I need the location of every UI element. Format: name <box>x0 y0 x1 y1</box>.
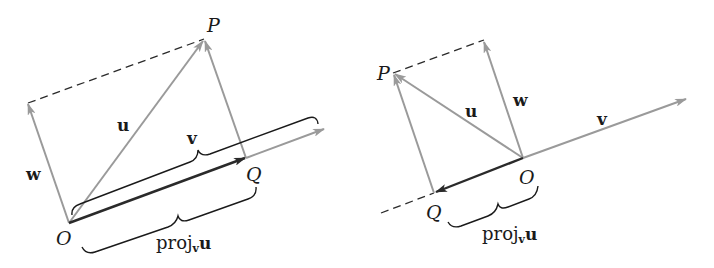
label-O: O <box>56 227 72 249</box>
right-diagram: P O Q u w v projvu <box>376 40 686 246</box>
vector-w-at-q <box>394 75 434 193</box>
label-Q: Q <box>426 201 442 223</box>
vector-proj <box>436 158 523 192</box>
label-u: u <box>117 115 129 135</box>
label-proj: projvu <box>156 232 211 255</box>
label-u: u <box>465 101 477 121</box>
label-w: w <box>25 164 41 184</box>
vector-v-extension <box>246 129 324 158</box>
left-diagram: P O Q u v w projvu <box>25 14 324 255</box>
proj-main: proj <box>156 232 193 253</box>
vector-u <box>69 41 203 223</box>
proj-main: proj <box>482 223 519 244</box>
proj-vec: u <box>525 224 537 244</box>
dashed-parallel-line <box>393 40 484 73</box>
label-P: P <box>206 14 221 36</box>
dashed-parallel-line <box>28 39 204 103</box>
label-v: v <box>186 128 198 148</box>
label-proj: projvu <box>482 223 537 246</box>
vector-u <box>395 74 523 158</box>
label-O: O <box>519 166 535 188</box>
label-Q: Q <box>246 163 262 185</box>
vector-proj <box>69 158 245 223</box>
brace-proj <box>448 186 538 227</box>
label-w: w <box>512 90 528 110</box>
label-v: v <box>596 109 608 129</box>
label-P: P <box>376 62 391 84</box>
vector-w-at-q <box>205 41 246 158</box>
vector-projection-figure: P O Q u v w projvu P O Q u w v p <box>0 0 714 268</box>
proj-vec: u <box>199 233 211 253</box>
